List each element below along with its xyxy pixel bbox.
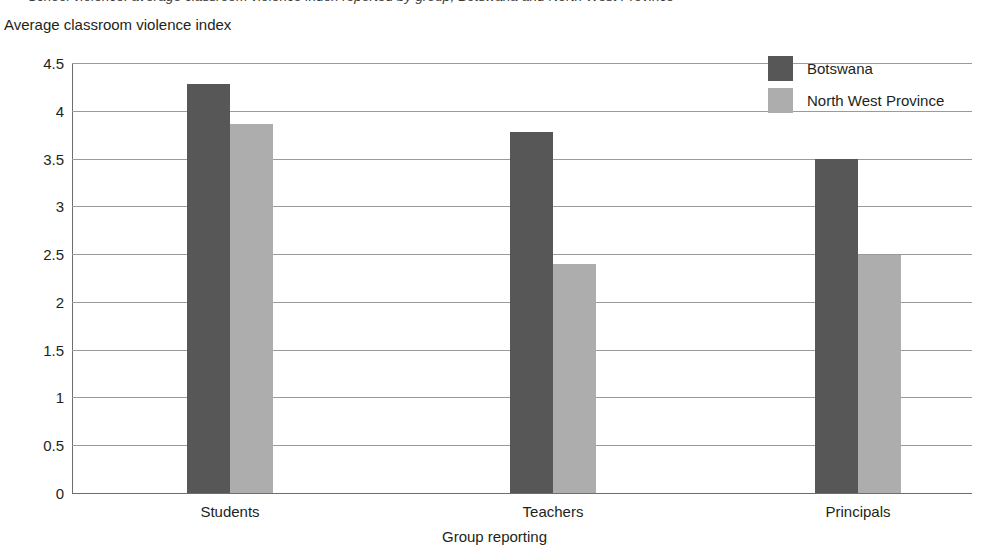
y-tick-label: 4.5 [4, 55, 64, 72]
legend-swatch-icon [768, 56, 793, 81]
x-axis-title: Group reporting [0, 528, 989, 545]
chart-legend: BotswanaNorth West Province [768, 52, 944, 116]
cropped-figure-title-text: School violence: average classroom viole… [28, 0, 674, 4]
x-tick-label-principals: Principals [825, 503, 890, 520]
plot-area [72, 63, 972, 493]
bar-students-north-west-province [230, 124, 273, 493]
legend-label: Botswana [807, 60, 873, 77]
y-tick-label: 2 [4, 293, 64, 310]
y-tick-label: 3 [4, 198, 64, 215]
cropped-figure-title: School violence: average classroom viole… [0, 0, 989, 10]
legend-item-north-west-province: North West Province [768, 84, 944, 116]
legend-item-botswana: Botswana [768, 52, 944, 84]
x-axis-baseline [72, 493, 972, 494]
bar-students-botswana [187, 84, 230, 493]
y-tick-label: 1.5 [4, 341, 64, 358]
bar-teachers-north-west-province [553, 264, 596, 493]
legend-swatch-icon [768, 88, 793, 113]
y-tick-label: 3.5 [4, 150, 64, 167]
y-axis-line [72, 63, 73, 493]
y-tick-label: 1 [4, 389, 64, 406]
bar-principals-north-west-province [858, 255, 901, 493]
y-tick-label: 0.5 [4, 437, 64, 454]
legend-label: North West Province [807, 92, 944, 109]
y-axis-title: Average classroom violence index [4, 16, 231, 33]
x-tick-label-students: Students [200, 503, 259, 520]
y-tick-label: 0 [4, 485, 64, 502]
bar-principals-botswana [815, 159, 858, 493]
y-tick-label: 2.5 [4, 246, 64, 263]
y-tick-label: 4 [4, 102, 64, 119]
bar-teachers-botswana [510, 132, 553, 493]
x-tick-label-teachers: Teachers [523, 503, 584, 520]
y-axis-tick-labels: 4.543.532.521.510.50 [0, 63, 64, 493]
